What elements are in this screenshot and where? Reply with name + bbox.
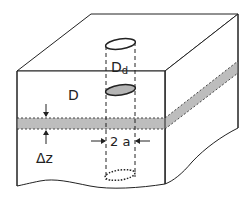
layer-band-front <box>17 118 165 129</box>
block-diagram: Dd D Δz 2 a <box>0 0 249 199</box>
diameter-label: 2 a <box>110 134 130 149</box>
thickness-label: Δz <box>36 150 53 166</box>
depth-label: D <box>68 87 79 103</box>
block-front-face <box>17 71 165 188</box>
